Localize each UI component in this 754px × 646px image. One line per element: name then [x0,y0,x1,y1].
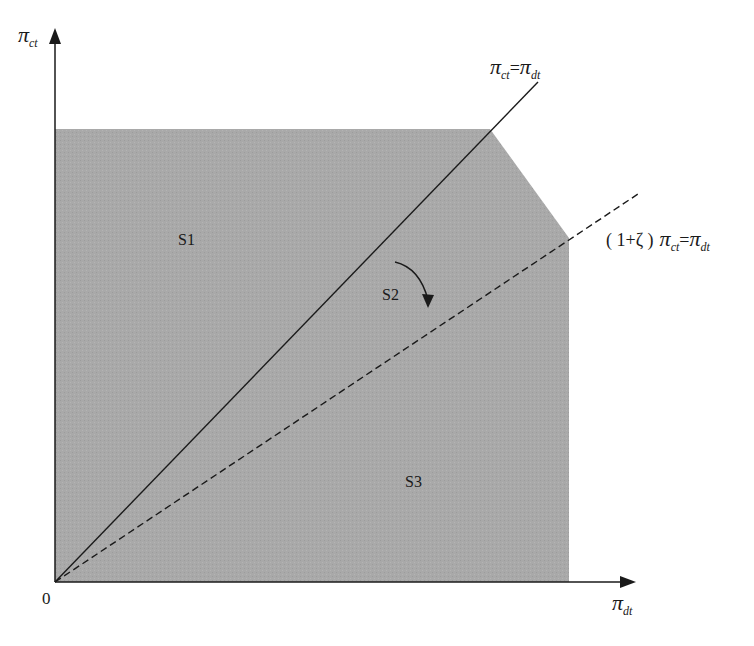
y-axis-arrow-icon [49,28,61,44]
shaded-region [55,129,569,582]
solid-line-label: πct=πdt [490,54,541,82]
y-axis-label: πct [18,22,38,50]
x-axis-arrow-icon [620,576,636,588]
region-label-s2: S2 [382,286,399,303]
region-diagram: πct πdt 0 πct=πdt ( 1+ζ )πct=πdt S1 S2 S… [0,0,754,646]
region-label-s3: S3 [405,473,422,490]
region-label-s1: S1 [178,231,195,248]
x-axis-label: πdt [612,590,633,618]
origin-label: 0 [42,589,51,608]
dashed-line-label: ( 1+ζ )πct=πdt [606,226,710,254]
